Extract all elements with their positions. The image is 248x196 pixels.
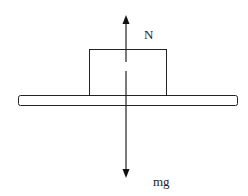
surface-plank: [19, 96, 238, 106]
normal-force-label: N: [144, 27, 154, 42]
weight-label: mg: [153, 174, 170, 189]
weight-arrow-head-icon: [123, 169, 130, 178]
normal-force-arrow-head-icon: [123, 15, 130, 24]
block: [90, 50, 167, 96]
free-body-diagram: N mg: [0, 0, 248, 196]
